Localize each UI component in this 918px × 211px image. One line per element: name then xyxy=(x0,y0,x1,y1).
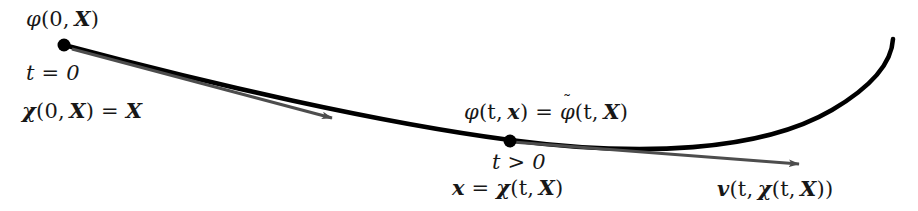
chi-symbol-current: χ xyxy=(496,175,510,200)
bold-X-velocity: X xyxy=(800,176,817,201)
bold-v: v xyxy=(717,176,729,201)
position-equals: = xyxy=(465,176,497,200)
current-particle-point xyxy=(504,135,517,148)
phi-tilde-symbol: φ xyxy=(560,100,575,124)
phi-tilde-open: (t, xyxy=(575,100,603,124)
label-current-position: x = χ(t, X) xyxy=(452,177,564,199)
bold-X-result: X xyxy=(126,98,143,123)
label-current-field-equality: φ(t, x) = ˜φ(t, X) xyxy=(464,101,628,123)
bold-X-current: X xyxy=(539,175,556,200)
label-velocity: v(t, χ(t, X)) xyxy=(717,178,833,200)
velocity-open2: (t, xyxy=(772,177,800,201)
phi-args-open: (0, xyxy=(41,7,74,31)
phi-open: (t, xyxy=(479,100,507,124)
velocity-open: (t, xyxy=(729,177,757,201)
phi-symbol: φ xyxy=(26,7,41,31)
chi-close-current: ) xyxy=(555,176,563,200)
motion-trajectory-figure: φ(0, X) t = 0 χ(0, X) = X φ(t, x) = ˜φ(t… xyxy=(0,0,918,211)
chi-symbol: χ xyxy=(22,98,36,123)
chi-open-current: (t, xyxy=(510,176,538,200)
bold-X-arg: X xyxy=(69,98,86,123)
phi-tilde-close: ) xyxy=(620,100,628,124)
chi-open: (0, xyxy=(36,99,69,123)
velocity-close: )) xyxy=(817,177,834,201)
label-current-time: t > 0 xyxy=(492,152,546,173)
bold-x-lhs: x xyxy=(452,175,465,200)
chi-equals: ) = xyxy=(86,99,126,123)
phi-symbol-current: φ xyxy=(464,100,479,124)
velocity-arrow xyxy=(512,142,799,164)
phi-equals: ) = xyxy=(520,100,560,124)
label-initial-motion: χ(0, X) = X xyxy=(22,100,142,122)
label-initial-time: t = 0 xyxy=(26,63,80,84)
label-initial-spatial-field: φ(0, X) xyxy=(26,8,99,30)
bold-X: X xyxy=(74,6,91,31)
bold-X-ref: X xyxy=(603,99,620,124)
bold-x: x xyxy=(507,99,520,124)
initial-particle-point xyxy=(58,39,71,52)
phi-tilde-group: ˜φ xyxy=(560,102,575,123)
phi-args-close: ) xyxy=(91,7,99,31)
trajectory-curve xyxy=(64,39,893,149)
chi-symbol-velocity: χ xyxy=(758,176,772,201)
